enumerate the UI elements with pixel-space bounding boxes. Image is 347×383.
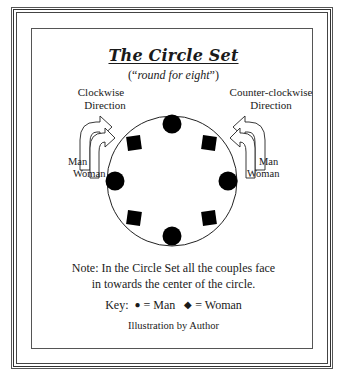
clockwise-woman-label: Woman [73,168,105,180]
man-marker-left [106,172,125,191]
man-circle-icon: ● [134,299,140,310]
note-text: Note: In the Circle Set all the couples … [0,260,347,292]
key-label: Key: [105,298,128,312]
man-marker-bottom [163,227,182,246]
man-marker-top [163,115,182,134]
note-line1: Note: In the Circle Set all the couples … [0,260,347,276]
woman-marker-bottom-right [201,210,217,226]
counter-clockwise-woman-label: Woman [247,168,279,180]
man-marker-right [219,172,238,191]
woman-marker-bottom-left [126,210,142,226]
key-man-text: = Man [144,298,176,312]
illustration-credit: Illustration by Author [0,320,347,331]
key-woman-text: = Woman [195,298,242,312]
woman-marker-top-left [126,135,142,151]
counter-clockwise-man-label: Man [259,156,278,168]
woman-diamond-icon: ◆ [184,299,192,310]
woman-marker-top-right [201,135,217,151]
clockwise-man-label: Man [68,156,87,168]
note-line2: in towards the center of the circle. [0,276,347,292]
legend-key: Key: ● = Man ◆ = Woman [0,298,347,313]
